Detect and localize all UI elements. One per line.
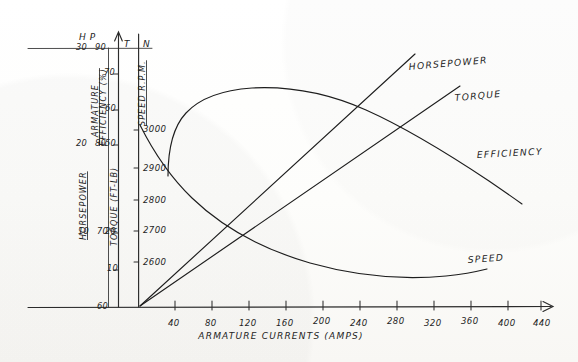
torque-axis-title: TORQUE (FT-LB) <box>110 167 119 246</box>
x-axis-title: ARMATURE CURRENTS (AMPS) <box>197 331 363 341</box>
x-tick-label-80: 80 <box>205 318 217 328</box>
x-tick-label-320: 320 <box>424 318 442 328</box>
x-tick-label-120: 120 <box>239 318 257 328</box>
torque-tick-label-60: 60 <box>105 103 116 113</box>
x-tick-label-400: 400 <box>498 318 516 328</box>
hp-top-value: 30 <box>76 42 87 52</box>
x-tick-label-240: 240 <box>350 318 368 328</box>
x-tick-label-440: 440 <box>533 318 551 328</box>
motor-characteristics-chart: H P 30 90 T N 20 10 HORSEPOWER 80 70 60 … <box>0 0 578 362</box>
torque-axis-header: T <box>124 39 131 49</box>
speed-tick-label-2800: 2800 <box>143 195 167 205</box>
hp-axis-header: H P <box>79 32 96 42</box>
x-tick-label-160: 160 <box>276 318 294 328</box>
horsepower-curve <box>140 54 415 306</box>
speed-curve-label: SPEED <box>467 251 504 265</box>
hp-axis-title: HORSEPOWER <box>79 171 88 240</box>
torque-curve-label: TORQUE <box>454 88 502 103</box>
speed-axis-header: N <box>143 39 150 49</box>
efficiency-tick-label-60: 60 <box>97 301 108 311</box>
x-tick-label-200: 200 <box>313 316 331 326</box>
efficiency-top-value: 90 <box>95 42 106 52</box>
hp-tick-label-20: 20 <box>76 138 87 148</box>
speed-axis-title: SPEED R.P.M. <box>138 60 147 126</box>
torque-curve <box>140 86 460 306</box>
torque-tick-label-50: 50 <box>105 138 116 148</box>
speed-tick-label-2600: 2600 <box>143 257 167 267</box>
torque-tick-label-10: 10 <box>107 263 118 273</box>
x-tick-label-40: 40 <box>168 318 180 328</box>
horsepower-curve-label: HORSEPOWER <box>408 54 488 72</box>
efficiency-curve <box>168 88 522 204</box>
efficiency-curve-label: EFFICIENCY <box>477 146 543 160</box>
speed-curve <box>140 125 487 277</box>
x-tick-label-360: 360 <box>461 316 479 326</box>
torque-tick-label-70: 70 <box>104 67 115 77</box>
speed-tick-label-2700: 2700 <box>143 225 167 235</box>
x-tick-label-280: 280 <box>387 316 405 326</box>
